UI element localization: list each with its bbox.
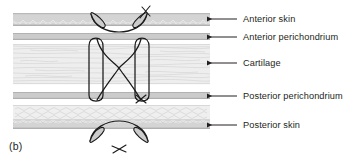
- posterior-perichondrium-layer: [13, 92, 210, 99]
- panel-caption: (b): [9, 140, 22, 152]
- label-anterior-skin: Anterior skin: [243, 14, 295, 25]
- label-cartilage: Cartilage: [243, 58, 281, 69]
- label-posterior-perichondrium: Posterior perichondrium: [243, 91, 343, 102]
- posterior-skin-layer: [13, 105, 213, 129]
- needle-posterior-tail-cross: [113, 145, 126, 153]
- anterior-perichondrium-layer: [13, 33, 210, 40]
- label-posterior-skin: Posterior skin: [243, 120, 300, 131]
- anatomical-diagram: [0, 0, 364, 163]
- anterior-skin-layer: [13, 13, 213, 26]
- label-anterior-perichondrium: Anterior perichondrium: [243, 32, 338, 43]
- leader-lines: [207, 19, 237, 125]
- figure-root: Anterior skin Anterior perichondrium Car…: [0, 0, 364, 163]
